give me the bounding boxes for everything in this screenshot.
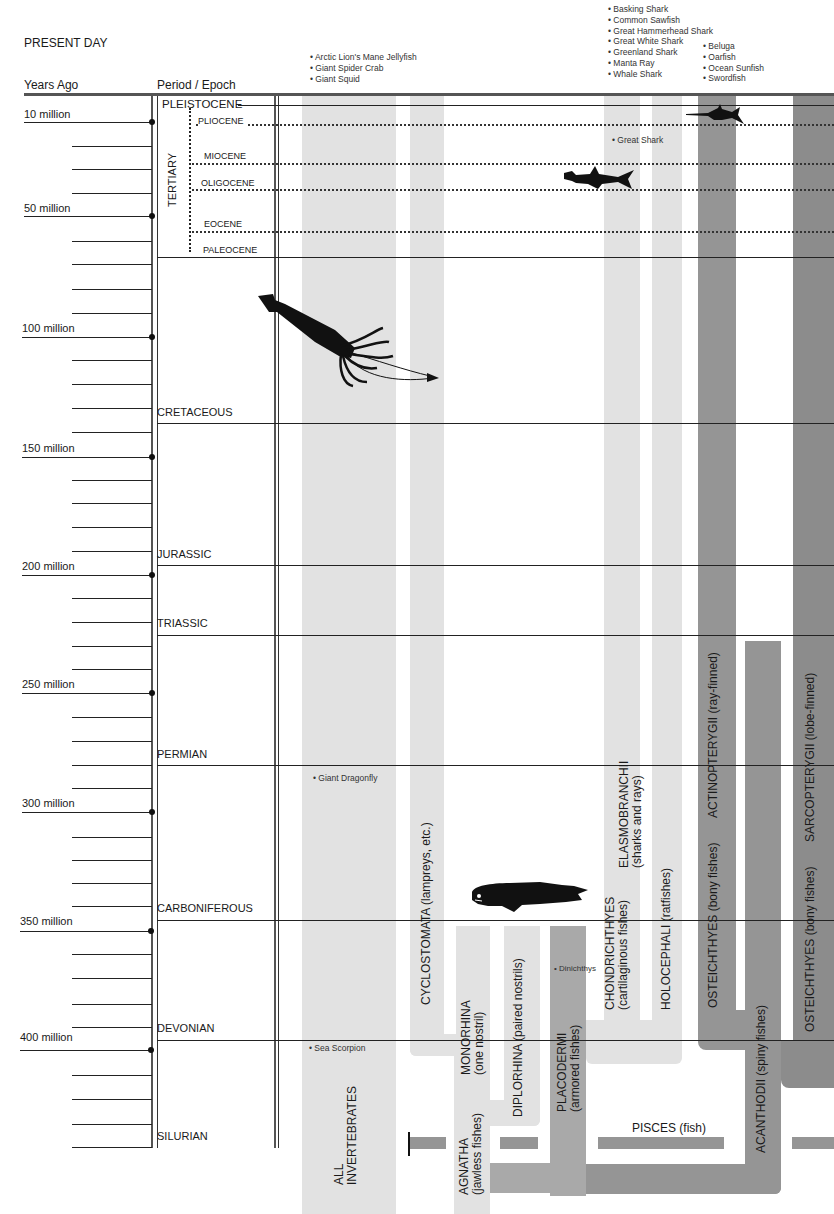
period-column-divider-inner — [278, 96, 279, 1148]
minor-tick — [72, 169, 152, 170]
label-diplorhina: DIPLORHINA (paired nostrils) — [512, 958, 525, 1117]
tick-dot — [149, 809, 155, 815]
minor-tick — [72, 480, 152, 481]
tertiary-bracket — [189, 108, 191, 252]
minor-tick — [72, 1147, 152, 1148]
epoch-line-miocene — [192, 163, 834, 165]
epoch-label: PALEOCENE — [203, 245, 257, 255]
label-elasmobranchii: ELASMOBRANCHII (sharks and rays) — [618, 761, 644, 868]
species-item: Ocean Sunfish — [703, 63, 764, 74]
giant-squid-icon — [255, 290, 445, 390]
time-label: 10 million — [24, 108, 70, 120]
species-item: Arctic Lion's Mane Jellyfish — [310, 52, 417, 63]
species-item: Giant Squid — [310, 74, 417, 85]
label-line: INVERTEBRATES — [346, 1086, 359, 1185]
period-label: DEVONIAN — [157, 1022, 214, 1034]
pisces-bar — [500, 1137, 538, 1149]
tick-dot — [149, 690, 155, 696]
minor-tick — [72, 622, 152, 623]
label-line: (one nostril) — [473, 1000, 486, 1075]
minor-tick — [72, 1075, 152, 1076]
minor-tick — [72, 883, 152, 884]
species-item: Oarfish — [703, 52, 764, 63]
minor-tick — [72, 1124, 152, 1125]
major-tick — [22, 575, 152, 576]
species-item: Swordfish — [703, 73, 764, 84]
major-tick — [24, 122, 152, 123]
label-line: (armored fishes) — [569, 1025, 582, 1112]
minor-tick — [72, 906, 152, 907]
period-label: SILURIAN — [157, 1130, 208, 1142]
period-line-carboniferous — [157, 920, 834, 921]
species-item: Common Sawfish — [608, 15, 713, 26]
minor-tick — [72, 978, 152, 979]
major-tick — [24, 216, 152, 217]
label-cyclostomata: CYCLOSTOMATA (lampreys, etc.) — [420, 822, 433, 1005]
tick-dot — [149, 213, 155, 219]
label-chondrichthyes: CHONDRICHTHYES (cartilaginous fishes) — [604, 897, 630, 1010]
species-item: Basking Shark — [608, 4, 713, 15]
pisces-bar-end-tick — [408, 1132, 410, 1156]
time-label: 100 million — [22, 322, 75, 334]
minor-tick — [72, 360, 152, 361]
period-label: PLEISTOCENE — [162, 98, 242, 110]
fossil-note-text: Great Shark — [617, 135, 663, 145]
period-column-divider — [274, 96, 276, 1148]
period-line-jurassic — [157, 565, 834, 566]
time-label: 200 million — [22, 560, 75, 572]
period-line-paleocene — [157, 257, 834, 258]
minor-tick — [72, 1004, 152, 1005]
band-agnatha-pisces-join — [490, 1163, 586, 1193]
period-label: TRIASSIC — [157, 617, 208, 629]
species-item: Great Hammerhead Shark — [608, 26, 713, 37]
minor-tick — [72, 1099, 152, 1100]
fossil-note-giant-dragonfly: • Giant Dragonfly — [313, 773, 377, 784]
minor-tick — [72, 384, 152, 385]
period-line-cretaceous — [157, 423, 834, 424]
tick-dot — [149, 119, 155, 125]
time-label: 400 million — [20, 1031, 73, 1043]
period-label: PERMIAN — [157, 748, 207, 760]
fossil-note-dinichthys: • Dinichthys — [554, 963, 596, 974]
tick-dot — [149, 572, 155, 578]
label-osteichthyes-a: OSTEICHTHYES (bony fishes) — [707, 843, 720, 1008]
minor-tick — [72, 717, 152, 718]
minor-tick — [72, 765, 152, 766]
label-sarcopterygii: SARCOPTERYGII (lobe-finned) — [804, 673, 817, 842]
label-osteichthyes-b: OSTEICHTHYES (bony fishes) — [804, 867, 817, 1032]
invertebrate-species-list: Arctic Lion's Mane Jellyfish Giant Spide… — [310, 52, 417, 84]
epoch-line-oligocene — [192, 189, 834, 191]
species-item: Manta Ray — [608, 58, 713, 69]
minor-tick — [72, 1027, 152, 1028]
present-day-label: PRESENT DAY — [24, 36, 108, 50]
label-agnatha: AGNATHA (jawless fishes) — [458, 1113, 484, 1195]
label-placodermi: PLACODERMI (armored fishes) — [556, 1025, 582, 1112]
epoch-label: OLIGOCENE — [201, 178, 255, 188]
species-item: Whale Shark — [608, 69, 713, 80]
time-label: 350 million — [20, 915, 73, 927]
hammerhead-shark-icon — [562, 165, 638, 193]
minor-tick — [72, 503, 152, 504]
species-item: Greenland Shark — [608, 47, 713, 58]
label-all-invertebrates: ALL INVERTEBRATES — [333, 1086, 359, 1185]
tick-dot — [149, 454, 155, 460]
minor-tick — [72, 146, 152, 147]
label-acanthodii: ACANTHODII (spiny fishes) — [755, 1005, 768, 1153]
years-ago-header: Years Ago — [24, 78, 78, 92]
minor-tick — [72, 264, 152, 265]
tertiary-label: TERTIARY — [166, 153, 179, 207]
fossil-note-text: Giant Dragonfly — [318, 773, 377, 783]
species-item: Beluga — [703, 41, 764, 52]
pisces-bar — [792, 1137, 834, 1149]
minor-tick — [72, 241, 152, 242]
minor-tick — [72, 551, 152, 552]
label-monorhina: MONORHINA (one nostril) — [460, 1000, 486, 1075]
pisces-bar — [598, 1137, 724, 1149]
major-tick — [20, 1050, 152, 1051]
tick-dot — [148, 928, 154, 934]
minor-tick — [72, 860, 152, 861]
tick-dot — [149, 334, 155, 340]
label-line: (jawless fishes) — [471, 1113, 484, 1195]
minor-tick — [72, 741, 152, 742]
label-actinopterygii: ACTINOPTERYGII (ray-finned) — [707, 652, 720, 818]
